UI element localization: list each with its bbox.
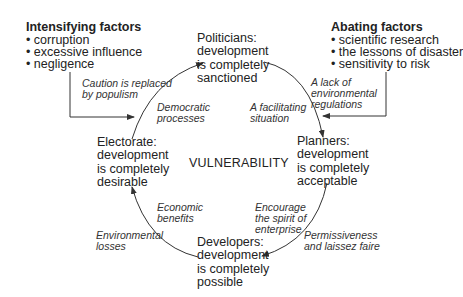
edge-label-caution-populism: Caution is replaced by populism <box>82 78 172 100</box>
edge-label-lack-regulations: A lack of environmental regulations <box>311 77 377 110</box>
center-label-vulnerability: VULNERABILITY <box>189 156 289 170</box>
node-developers: Developers: development is completely po… <box>197 236 269 290</box>
edge-label-environmental-losses: Environmental losses <box>96 230 163 252</box>
node-planners: Planners: development is completely acce… <box>297 135 369 189</box>
abating-factor-sensitivity-to-risk: • sensitivity to risk <box>331 58 463 70</box>
edge-label-permissiveness: Permissiveness and laissez faire <box>304 230 380 252</box>
intensifying-factors-box: Intensifying factors • corruption • exce… <box>26 21 142 70</box>
intensifying-factor-negligence: • negligence <box>26 58 142 70</box>
edge-label-democratic-processes: Democratic processes <box>157 102 210 124</box>
edge-label-facilitating-situation: A facilitating situation <box>250 102 306 124</box>
node-electorate: Electorate: development is completely de… <box>97 136 169 190</box>
edge-label-encourage-enterprise: Encourage the spirit of enterprise <box>255 202 306 235</box>
edge-label-economic-benefits: Economic benefits <box>157 202 203 224</box>
node-politicians: Politicians: development is completely s… <box>197 32 269 86</box>
abating-factors-box: Abating factors • scientific research • … <box>331 21 463 70</box>
